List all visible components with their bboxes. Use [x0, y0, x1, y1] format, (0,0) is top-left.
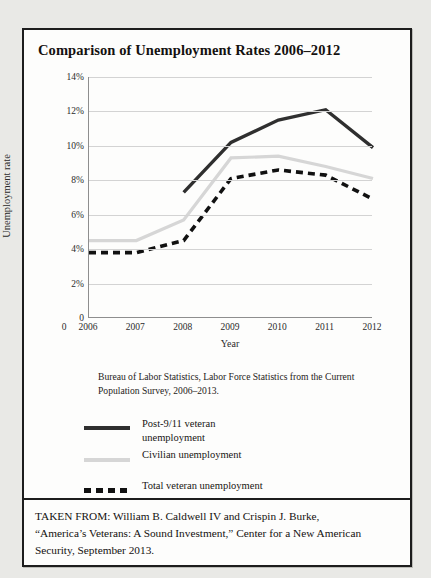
y-tick-label: 2% — [32, 279, 84, 289]
gridline — [89, 111, 372, 112]
x-tick-label-origin: 0 — [62, 322, 67, 332]
x-tick-label: 2006 — [79, 322, 98, 332]
page-title: Comparison of Unemployment Rates 2006–20… — [38, 42, 340, 59]
y-tick-label: 4% — [32, 244, 84, 254]
chart-container: 02%4%6%8%10%12%14% Unemployment rate Yea… — [24, 68, 410, 368]
y-tick-label: 6% — [32, 210, 84, 220]
legend-swatch-icon — [84, 454, 130, 464]
x-tick-label: 2007 — [126, 322, 145, 332]
series-line — [89, 156, 373, 240]
legend-swatch-icon — [84, 485, 130, 495]
x-axis-title: Year — [221, 338, 239, 349]
footer-line: Security, September 2013. — [35, 542, 399, 559]
legend-item: Post-9/11 veteranunemployment — [84, 418, 404, 440]
plot-area — [88, 77, 372, 318]
legend-label-line: Civilian unemployment — [142, 448, 241, 462]
figure-frame: Comparison of Unemployment Rates 2006–20… — [22, 28, 412, 567]
footer-line: “America’s Veterans: A Sound Investment,… — [35, 525, 399, 542]
legend-item: Civilian unemployment — [84, 449, 404, 471]
legend-label-line: unemployment — [142, 431, 215, 445]
y-axis-title: Unemployment rate — [1, 154, 12, 238]
x-tick-label: 2011 — [315, 322, 334, 332]
gridline — [89, 77, 372, 78]
gridline — [89, 146, 372, 147]
gridline — [89, 180, 372, 181]
page-canvas: Comparison of Unemployment Rates 2006–20… — [0, 0, 431, 578]
legend-swatch-icon — [84, 423, 130, 433]
footer-attribution: TAKEN FROM: William B. Caldwell IV and C… — [35, 508, 399, 559]
x-tick-label: 2009 — [221, 322, 240, 332]
legend-label-line: Post-9/11 veteran — [142, 417, 215, 431]
footer-line: TAKEN FROM: William B. Caldwell IV and C… — [35, 508, 399, 525]
x-tick-label: 2008 — [173, 322, 192, 332]
line-swatch-gray — [84, 458, 130, 462]
line-swatch-dark — [84, 426, 130, 430]
gridline — [89, 249, 372, 250]
legend-label: Civilian unemployment — [142, 448, 241, 462]
legend-label: Total veteran unemployment — [142, 479, 263, 493]
source-note: Bureau of Labor Statistics, Labor Force … — [98, 370, 398, 398]
footer-divider — [24, 498, 410, 500]
legend-label: Post-9/11 veteranunemployment — [142, 417, 215, 444]
y-tick-label: 10% — [32, 141, 84, 151]
y-tick-label: 0 — [32, 313, 84, 323]
y-tick-label: 12% — [32, 106, 84, 116]
y-tick-label: 8% — [32, 175, 84, 185]
legend-label-line: Total veteran unemployment — [142, 479, 263, 493]
series-lines — [89, 77, 373, 318]
gridline — [89, 215, 372, 216]
y-tick-label: 14% — [32, 72, 84, 82]
x-tick-label: 2010 — [268, 322, 287, 332]
y-axis-tick-labels: 02%4%6%8%10%12%14% — [24, 77, 84, 318]
gridline — [89, 284, 372, 285]
line-swatch-dashed — [84, 488, 130, 493]
x-tick-label: 2012 — [363, 322, 382, 332]
